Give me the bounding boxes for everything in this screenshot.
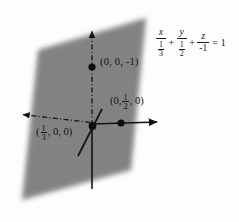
z-intercept-point	[88, 63, 95, 70]
diagram-canvas: (0, 0, -1) (0,12, 0) (13, 0, 0) x 1 3 + …	[0, 0, 239, 222]
x-label-suffix: , 0, 0)	[48, 126, 73, 137]
y-intercept-point	[117, 119, 124, 126]
equation-right-side: 1	[221, 37, 226, 48]
equation-term-y-den-num: 1	[179, 41, 185, 49]
y-intercept-label: (0,12, 0)	[110, 93, 144, 111]
equation-term-x-den-den: 3	[158, 49, 164, 58]
equation-term-y-den-den: 2	[179, 49, 185, 58]
equation-term-x-numerator: x	[157, 27, 165, 38]
equation-term-y: y 1 2	[177, 27, 187, 58]
y-label-prefix: (0,	[110, 95, 121, 106]
equation-term-x-denominator-fraction: 1 3	[158, 41, 164, 58]
y-label-suffix: , 0)	[130, 95, 144, 106]
equation-term-z-numerator: z	[199, 31, 207, 42]
equation-equals-sign: =	[212, 37, 218, 48]
equation-term-z: z -1	[197, 31, 209, 53]
equation-term-x-den-num: 1	[158, 41, 164, 49]
plane-equation: x 1 3 + y 1 2 + z -1 = 1	[156, 27, 226, 58]
equation-term-x-denominator: 1 3	[156, 38, 166, 58]
y-label-fraction-numerator: 1	[122, 93, 128, 102]
z-intercept-label: (0, 0, -1)	[100, 57, 139, 68]
equation-operator-2: +	[189, 37, 195, 48]
equation-term-y-denominator: 1 2	[177, 38, 187, 58]
y-label-fraction-denominator: 2	[122, 101, 128, 111]
x-intercept-label: (13, 0, 0)	[36, 124, 72, 142]
equation-term-z-denominator: -1	[197, 42, 209, 54]
x-intercept-point	[89, 122, 97, 130]
equation-term-y-denominator-fraction: 1 2	[179, 41, 185, 58]
equation-term-x: x 1 3	[156, 27, 166, 58]
y-label-fraction: 12	[122, 93, 128, 111]
x-label-prefix: (	[36, 126, 40, 137]
x-label-fraction-numerator: 1	[41, 124, 47, 133]
x-label-fraction-denominator: 3	[41, 132, 47, 142]
equation-operator-1: +	[169, 37, 175, 48]
equation-term-y-numerator: y	[177, 27, 185, 38]
x-label-fraction: 13	[41, 124, 47, 142]
